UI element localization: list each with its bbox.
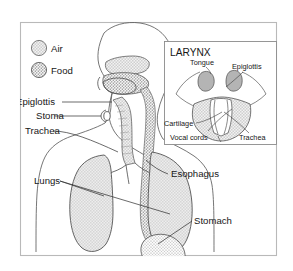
label-stomach: Stomach bbox=[194, 215, 232, 226]
anatomy-figure: Epiglottis Stoma Trachea Lungs Esophagus… bbox=[0, 0, 293, 271]
inset-label-tongue: Tongue bbox=[190, 58, 214, 67]
legend: Air Food bbox=[31, 40, 72, 77]
nasal-cavity-air bbox=[105, 56, 149, 75]
label-lungs: Lungs bbox=[34, 175, 60, 186]
inset-label-vocal-cords: Vocal cords bbox=[170, 133, 208, 142]
label-esophagus: Esophagus bbox=[171, 168, 219, 179]
larynx-inset: LARYNX bbox=[164, 42, 277, 145]
left-lung bbox=[70, 155, 113, 251]
inset-vocal-fold-pair bbox=[210, 99, 232, 137]
inset-title: LARYNX bbox=[170, 47, 211, 58]
inset-epiglottis-shape bbox=[226, 70, 242, 91]
inset-label-trachea: Trachea bbox=[239, 133, 266, 142]
leader-trachea bbox=[53, 131, 118, 152]
inset-label-cartilage: Cartilage bbox=[164, 119, 193, 128]
inset-tongue-shape bbox=[198, 71, 214, 91]
air-swatch-icon bbox=[31, 40, 46, 55]
legend-label-air: Air bbox=[51, 43, 64, 54]
stoma-marker bbox=[104, 112, 110, 121]
legend-label-food: Food bbox=[51, 65, 73, 76]
label-epiglottis: Epiglottis bbox=[16, 96, 55, 107]
inset-label-epiglottis: Epiglottis bbox=[232, 62, 262, 71]
label-trachea: Trachea bbox=[25, 125, 61, 136]
label-stoma: Stoma bbox=[36, 110, 64, 121]
food-swatch-icon bbox=[31, 62, 46, 77]
anatomy-diagram-canvas: Epiglottis Stoma Trachea Lungs Esophagus… bbox=[0, 0, 293, 271]
